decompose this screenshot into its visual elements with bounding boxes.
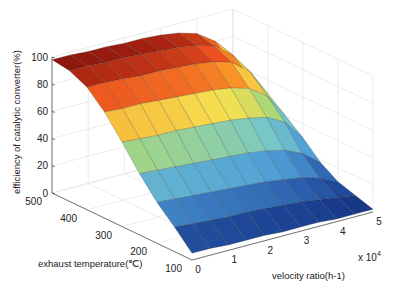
svg-text:60: 60 <box>37 106 49 117</box>
z-axis-label: efficiency of catalytic converter(%) <box>11 50 22 194</box>
svg-text:2: 2 <box>268 245 274 256</box>
surface-plot <box>52 33 373 253</box>
svg-text:40: 40 <box>37 133 49 144</box>
x-axis-label: velocity ratio(h-1) <box>272 270 345 281</box>
svg-text:500: 500 <box>25 196 42 207</box>
y-axis-label: exhaust temperature(℃) <box>38 258 142 269</box>
svg-text:80: 80 <box>37 79 49 90</box>
surface-chart: 020406080100100200300400500012345 effici… <box>0 0 399 294</box>
svg-text:200: 200 <box>130 246 147 257</box>
svg-text:1: 1 <box>231 254 237 265</box>
svg-text:3: 3 <box>304 235 310 246</box>
x-axis-multiplier: x 104 <box>358 250 381 263</box>
svg-text:400: 400 <box>60 213 77 224</box>
svg-text:100: 100 <box>165 263 182 274</box>
svg-text:0: 0 <box>42 188 48 199</box>
svg-text:100: 100 <box>31 52 48 63</box>
svg-text:20: 20 <box>37 160 49 171</box>
svg-text:4: 4 <box>340 226 346 237</box>
svg-text:0: 0 <box>195 264 201 275</box>
svg-text:5: 5 <box>376 216 382 227</box>
svg-text:300: 300 <box>95 230 112 241</box>
